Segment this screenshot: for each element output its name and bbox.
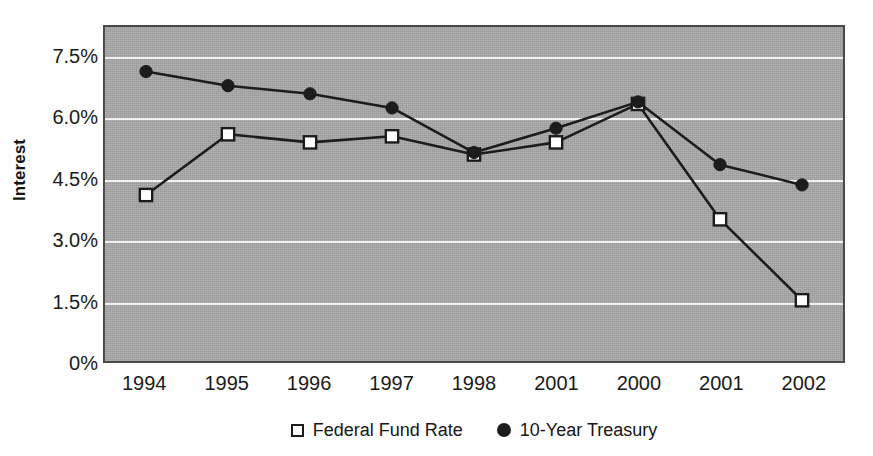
series-line xyxy=(146,72,802,185)
y-axis-tick-labels: 7.5%6.0%4.5%3.0%1.5%0% xyxy=(24,0,98,456)
legend-item-label: Federal Fund Rate xyxy=(313,420,463,441)
data-point-square-marker xyxy=(140,189,152,201)
series-plot xyxy=(105,27,843,361)
y-tick-label: 0% xyxy=(26,352,98,375)
chart-legend: Federal Fund Rate10-Year Treasury xyxy=(103,414,845,446)
y-tick-label: 7.5% xyxy=(26,44,98,67)
y-tick-label: 4.5% xyxy=(26,167,98,190)
data-point-square-marker xyxy=(304,136,316,148)
x-tick-label: 1995 xyxy=(182,372,272,395)
data-point-circle-marker xyxy=(468,146,480,158)
x-tick-label: 1994 xyxy=(99,372,189,395)
data-point-square-marker xyxy=(386,130,398,142)
y-tick-label: 3.0% xyxy=(26,229,98,252)
series-federal-fund-rate xyxy=(140,98,808,307)
data-point-square-marker xyxy=(714,213,726,225)
data-point-circle-marker xyxy=(222,80,234,92)
y-tick-label: 1.5% xyxy=(26,290,98,313)
plot-area xyxy=(103,25,845,363)
x-tick-label: 1998 xyxy=(429,372,519,395)
legend-item: Federal Fund Rate xyxy=(291,420,463,441)
data-point-square-marker xyxy=(222,128,234,140)
legend-circle-marker-icon xyxy=(497,423,511,437)
x-tick-label: 1997 xyxy=(347,372,437,395)
x-tick-label: 1996 xyxy=(264,372,354,395)
data-point-circle-marker xyxy=(550,122,562,134)
data-point-square-marker xyxy=(796,294,808,306)
x-tick-label: 2000 xyxy=(594,372,684,395)
data-point-circle-marker xyxy=(714,159,726,171)
legend-item-label: 10-Year Treasury xyxy=(520,420,657,441)
interest-rate-line-chart: Interest 7.5%6.0%4.5%3.0%1.5%0% 19941995… xyxy=(0,0,873,456)
data-point-square-marker xyxy=(550,136,562,148)
data-point-circle-marker xyxy=(632,96,644,108)
data-point-circle-marker xyxy=(796,179,808,191)
data-point-circle-marker xyxy=(386,102,398,114)
legend-item: 10-Year Treasury xyxy=(497,420,657,441)
y-tick-label: 6.0% xyxy=(26,106,98,129)
x-tick-label: 2001 xyxy=(676,372,766,395)
x-tick-label: 2001 xyxy=(511,372,601,395)
x-tick-label: 2002 xyxy=(759,372,849,395)
series-line xyxy=(146,104,802,300)
x-axis-tick-labels: 199419951996199719982001200020012002 xyxy=(103,372,845,402)
legend-square-marker-icon xyxy=(291,424,304,437)
data-point-circle-marker xyxy=(140,65,152,77)
data-point-circle-marker xyxy=(304,88,316,100)
series-10-year-treasury xyxy=(140,65,808,191)
